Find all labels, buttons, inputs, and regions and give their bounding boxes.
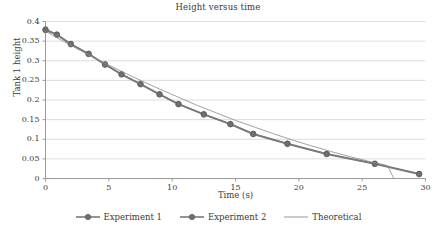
data-point: [157, 92, 162, 97]
legend-item[interactable]: Experiment 2: [179, 212, 266, 222]
data-point: [201, 112, 206, 117]
data-point: [416, 171, 421, 176]
y-tick-label: 0.35: [14, 36, 40, 45]
data-point: [251, 131, 256, 136]
series-line: [46, 29, 420, 173]
legend-line-marker-icon: [179, 212, 205, 222]
legend-label: Experiment 2: [208, 212, 266, 222]
gridlines: [46, 22, 426, 159]
legend-item[interactable]: Theoretical: [283, 212, 361, 222]
plot-area: [0, 0, 436, 244]
y-tick-label: 0: [14, 174, 40, 183]
y-tick-label: 0.15: [14, 115, 40, 124]
data-point: [324, 151, 329, 156]
data-point: [228, 122, 233, 127]
chart-figure: Height versus time Tank 1 height 00.050.…: [0, 0, 436, 244]
legend-line-marker-icon: [75, 212, 101, 222]
y-tick-label: 0.2: [14, 95, 40, 104]
y-tick-label: 0.25: [14, 75, 40, 84]
y-tick-label: 0.3: [14, 56, 40, 65]
legend-line-icon: [283, 212, 309, 222]
legend-label: Experiment 1: [104, 212, 162, 222]
x-axis-label: Time (s): [45, 190, 426, 200]
legend-label: Theoretical: [312, 212, 361, 222]
data-point: [138, 82, 143, 87]
y-tick-label: 0.4: [14, 17, 40, 26]
series-layer: [43, 27, 422, 179]
chart-legend: Experiment 1Experiment 2Theoretical: [0, 212, 436, 222]
y-tick-label: 0.05: [14, 154, 40, 163]
data-point: [285, 141, 290, 146]
y-tick-label: 0.1: [14, 134, 40, 143]
axis-ticks: [43, 22, 426, 182]
legend-item[interactable]: Experiment 1: [75, 212, 162, 222]
series-line: [46, 30, 420, 174]
data-point: [176, 102, 181, 107]
